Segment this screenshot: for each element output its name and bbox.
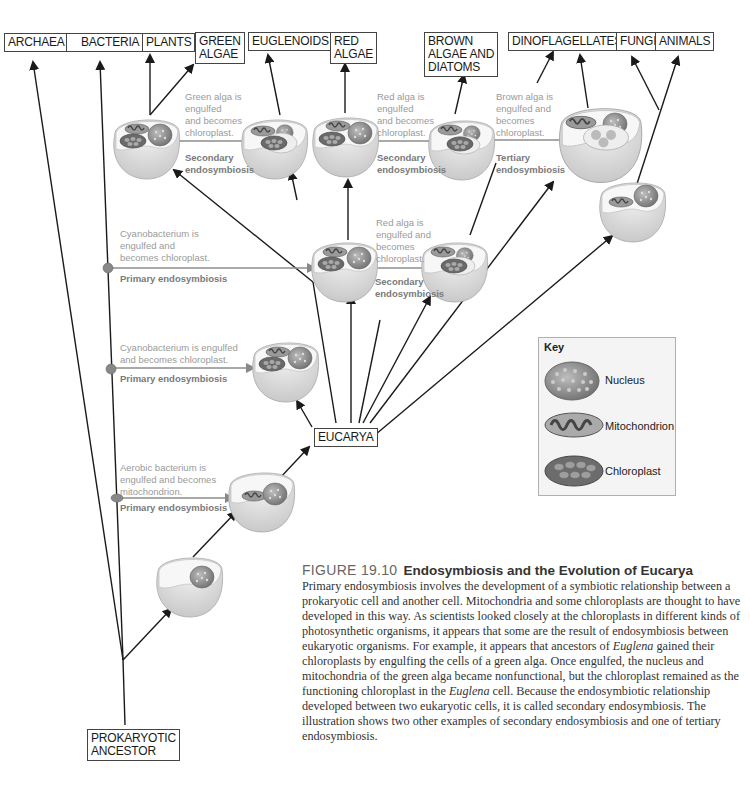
stage-secondary-3: Secondary endosymbiosis [375,276,444,300]
taxon-prokaryotic-ancestor: PROKARYOTIC ANCESTOR [87,729,180,761]
note-aerobic-bacterium: Aerobic bacterium is engulfed and become… [120,462,216,498]
taxon-animals: ANIMALS [655,32,714,51]
taxon-brown-algae-diatoms: BROWN ALGAE AND DIATOMS [424,32,498,77]
nucleus-icon [543,360,603,402]
note-brown-alga: Brown alga is engulfed and becomes chlor… [496,91,553,139]
figure-number: FIGURE 19.10 [302,562,397,578]
note-red-alga-top: Red alga is engulfed and becomes chlorop… [377,91,434,139]
figure-caption: FIGURE 19.10 Endosymbiosis and the Evolu… [302,563,742,744]
stage-secondary-1: Secondary endosymbiosis [185,152,254,176]
stage-secondary-2: Secondary endosymbiosis [377,152,446,176]
legend-key: Key Nucleus Mitochondrion Chloroplast [538,337,676,496]
caption-heading: FIGURE 19.10 Endosymbiosis and the Evolu… [302,563,742,579]
caption-body: Primary endosymbiosis involves the devel… [302,579,742,744]
caption-italic-euglena: Euglena [613,639,654,653]
stage-primary-2: Primary endosymbiosis [120,373,227,385]
stage-primary-1: Primary endosymbiosis [120,273,227,285]
note-green-alga: Green alga is engulfed and becomes chlor… [185,91,242,139]
taxon-dinoflagellates: DINOFLAGELLATES [508,32,626,51]
cell-green-primary [253,343,319,402]
note-cyanobacterium-1: Cyanobacterium is engulfed and becomes c… [120,228,210,264]
taxon-euglenoids: EUGLENOIDS [248,32,333,51]
cell-green-algae [114,120,180,179]
taxon-plants: PLANTS [142,33,195,52]
taxon-green-algae: GREEN ALGAE [195,32,245,64]
note-red-alga-mid: Red alga is engulfed and becomes chlorop… [376,217,431,265]
cell-red-alga-primary [312,243,378,302]
cell-mitochondrial [229,473,295,532]
stage-tertiary: Tertiary endosymbiosis [496,152,565,176]
caption-italic-euglena: Euglena [449,684,490,698]
cell-red-algae [313,118,379,177]
taxon-red-algae: RED ALGAE [330,32,377,64]
note-cyanobacterium-2: Cyanobacterium is engulfed and becomes c… [120,342,238,366]
taxon-archaea: ARCHAEA [4,33,69,52]
stage-primary-3: Primary endosymbiosis [120,502,227,514]
key-title: Key [544,341,564,353]
taxon-fungi: FUNGI [616,32,660,51]
cell-early-eukaryote [157,558,223,617]
key-label-mitochondrion: Mitochondrion [605,420,674,432]
key-label-chloroplast: Chloroplast [605,465,661,477]
cell-dinoflagellate [559,109,641,183]
chloroplast-icon [543,454,605,488]
taxon-eucarya: EUCARYA [314,428,378,447]
cell-opisthokont [600,183,666,242]
figure-title: Endosymbiosis and the Evolution of Eucar… [404,563,694,578]
key-label-nucleus: Nucleus [605,374,645,386]
mitochondrion-icon [543,410,605,440]
